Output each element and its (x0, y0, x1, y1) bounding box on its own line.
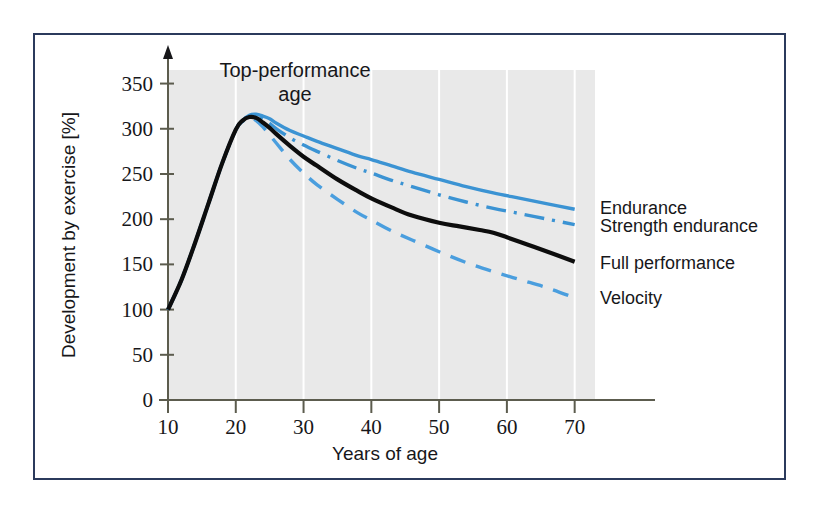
y-tick-label: 350 (122, 72, 154, 96)
x-axis-tick-labels: 10203040506070 (158, 415, 586, 439)
x-tick-label: 20 (225, 415, 246, 439)
y-tick-label: 200 (122, 207, 154, 231)
y-tick-label: 300 (122, 117, 154, 141)
annotation-line-1: Top-performance (219, 59, 370, 81)
y-tick-label: 150 (122, 252, 154, 276)
series-label-full-performance: Full performance (600, 253, 735, 273)
series-label-velocity: Velocity (600, 288, 662, 308)
y-tick-label: 0 (143, 388, 154, 412)
annotation-line-2: age (278, 83, 311, 105)
x-tick-label: 30 (293, 415, 314, 439)
plot-background (168, 70, 595, 400)
y-tick-label: 50 (132, 343, 153, 367)
x-axis-title: Years of age (332, 443, 438, 464)
y-axis-tick-labels: 050100150200250300350 (122, 72, 154, 412)
y-axis-title: Development by exercise [%] (58, 112, 79, 358)
x-tick-label: 40 (361, 415, 382, 439)
y-tick-label: 100 (122, 298, 154, 322)
x-axis-ticks (168, 400, 575, 413)
x-tick-label: 50 (429, 415, 450, 439)
figure-frame: 050100150200250300350 10203040506070 End… (33, 33, 786, 480)
series-label-endurance: Endurance (600, 198, 687, 218)
x-tick-label: 70 (564, 415, 585, 439)
x-tick-label: 60 (496, 415, 517, 439)
y-tick-label: 250 (122, 162, 154, 186)
series-label-strength-endurance: Strength endurance (600, 216, 758, 236)
series-labels-group: EnduranceStrength enduranceFull performa… (600, 198, 758, 308)
figure-root: 050100150200250300350 10203040506070 End… (0, 0, 817, 513)
line-chart: 050100150200250300350 10203040506070 End… (35, 35, 784, 478)
x-tick-label: 10 (158, 415, 179, 439)
